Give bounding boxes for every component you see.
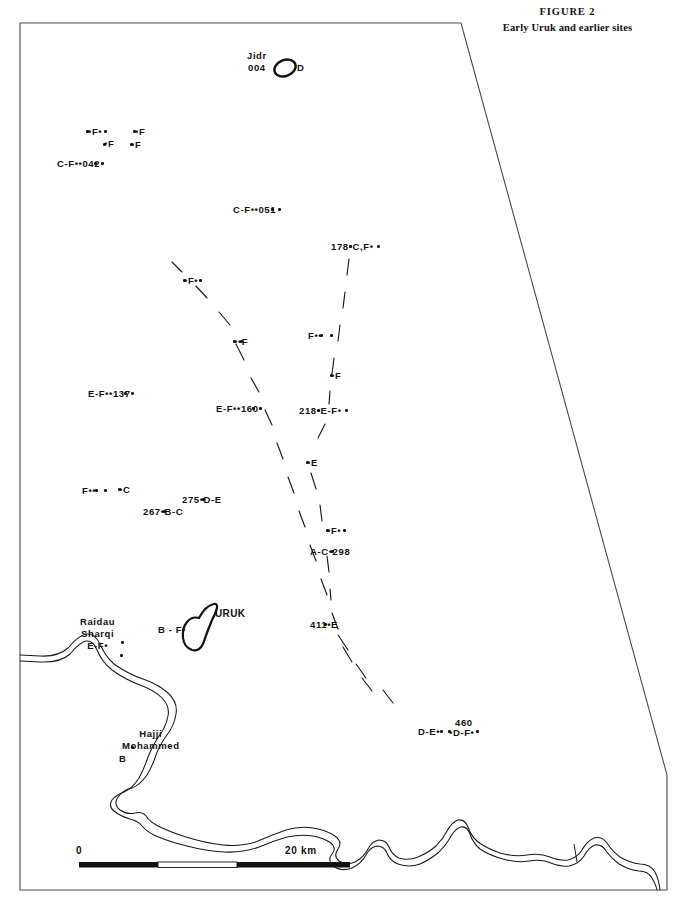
site-label: •F: [131, 139, 141, 150]
site-label-raidau-sharqi: Raidau Sharqi E-F•: [80, 616, 115, 652]
site-label: 218•E-F•: [299, 405, 342, 416]
site-dot: [121, 641, 124, 644]
scale-start-label: 0: [76, 845, 82, 856]
site-dot: [120, 654, 123, 657]
site-dot: [131, 392, 134, 395]
site-label: •F: [331, 370, 341, 381]
site-label: •F: [135, 126, 145, 137]
site-label: •D-F•: [449, 727, 474, 738]
site-label: A-C•298: [310, 546, 350, 557]
site-period-jidr: D: [297, 62, 304, 73]
site-period-hajji-mohammed: B: [119, 753, 126, 764]
site-label: •F•: [327, 525, 341, 536]
site-dot: [440, 730, 443, 733]
site-dot: [278, 208, 281, 211]
site-label: E-F••160: [216, 403, 259, 414]
site-label: C-F••042: [57, 158, 100, 169]
site-label: F••: [308, 330, 322, 341]
site-dot: [330, 334, 333, 337]
euphrates-river: [20, 634, 660, 890]
site-label: 178•C,F•: [331, 241, 374, 252]
site-label: E-F••137: [88, 388, 131, 399]
site-outline-uruk: [183, 604, 217, 650]
site-label: •F•: [184, 275, 198, 286]
site-label: ••F: [234, 336, 248, 347]
figure-page: FIGURE 2 Early Uruk and earlier sites: [0, 0, 679, 904]
site-dot: [476, 730, 479, 733]
river-tributary-tick: [574, 844, 577, 862]
site-label: •F•: [88, 126, 102, 137]
survey-area-border: [20, 23, 667, 890]
site-label: 267•B-C: [143, 506, 183, 517]
relict-watercourse-east: [311, 259, 393, 703]
site-outline-jidr: [272, 56, 298, 79]
site-dot: [259, 407, 262, 410]
site-dot: [101, 162, 104, 165]
site-label: C-F••051: [233, 204, 276, 215]
site-label: •C: [119, 484, 130, 495]
site-label: F••: [82, 485, 96, 496]
site-dot: [377, 245, 380, 248]
site-dot: [199, 279, 202, 282]
site-label-uruk: URUK: [215, 608, 246, 619]
scale-bar: [79, 862, 350, 868]
site-dot: [345, 409, 348, 412]
site-label: 275•D-E: [182, 494, 222, 505]
site-dot: [104, 489, 107, 492]
site-period-uruk: B - F•: [158, 624, 186, 635]
site-label: 411•E: [310, 619, 338, 630]
site-label: D-E•: [418, 726, 440, 737]
site-label: •F: [104, 138, 114, 149]
site-label-jidr: Jidr 004: [247, 50, 267, 74]
site-dot: [104, 130, 107, 133]
site-label-hajji-mohammed: Hajji Mohammed: [122, 728, 180, 752]
site-dot: [343, 529, 346, 532]
relict-watercourse-west: [172, 262, 372, 691]
scale-end-label: 20 km: [285, 845, 317, 856]
site-label: •E: [307, 457, 318, 468]
